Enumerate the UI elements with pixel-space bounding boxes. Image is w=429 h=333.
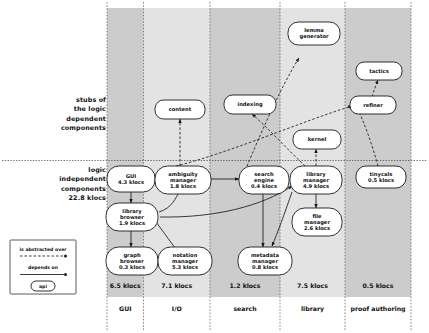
column-name-gui: GUI bbox=[119, 305, 131, 312]
node-libmgr-label-2: 4.9 klocs bbox=[303, 183, 329, 189]
node-filemgr-label-0: file bbox=[312, 213, 322, 219]
node-tinycals-label-1: 0.5 klocs bbox=[368, 177, 394, 183]
node-lemmagen-label-1: generator bbox=[299, 33, 329, 40]
node-libbrow-label-2: 1.9 klocs bbox=[119, 220, 145, 226]
node-ambig-label-2: 1.8 klocs bbox=[170, 183, 196, 189]
legend-api-label: api bbox=[39, 284, 47, 289]
legend: is abstracted over depends on api bbox=[10, 240, 76, 294]
node-searcheng-label-0: search bbox=[254, 171, 274, 177]
node-graphbrow-label-2: 0.3 klocs bbox=[119, 264, 145, 270]
node-searcheng-label-2: 0.4 klocs bbox=[251, 183, 277, 189]
node-libbrow-label-1: browser bbox=[120, 214, 144, 220]
column-name-proof: proof authoring bbox=[350, 305, 405, 313]
column-band-proof bbox=[345, 8, 411, 297]
node-metadata-label-0: metadata bbox=[251, 252, 280, 258]
node-tactics-label-0: tactics bbox=[369, 68, 388, 74]
node-gui-label-0: GUI bbox=[126, 173, 136, 179]
column-name-search: search bbox=[233, 305, 256, 312]
column-name-io: I/O bbox=[172, 305, 182, 312]
node-lemmagen-label-0: lemma bbox=[304, 27, 324, 33]
node-indexing-label-0: indexing bbox=[237, 101, 263, 108]
diagram-canvas: contentindexingkernellemmageneratortacti… bbox=[0, 0, 429, 333]
node-filemgr-label-2: 2.6 klocs bbox=[304, 225, 330, 231]
node-graphbrow-label-1: browser bbox=[120, 258, 144, 264]
column-total-search: 1.2 klocs bbox=[230, 282, 261, 289]
column-total-proof: 0.5 klocs bbox=[363, 282, 394, 289]
legend-depends-dot bbox=[64, 273, 67, 276]
node-metadata-label-2: 0.8 klocs bbox=[252, 264, 278, 270]
column-total-lib: 7.5 klocs bbox=[297, 282, 328, 289]
legend-abstracted-dot bbox=[64, 255, 67, 258]
node-notation-label-0: notation bbox=[173, 252, 198, 258]
node-gui-label-1: 4.3 klocs bbox=[118, 179, 144, 185]
node-refiner-label-0: refiner bbox=[363, 102, 383, 108]
legend-depends-label: depends on bbox=[28, 265, 58, 270]
node-kernel-label-0: kernel bbox=[308, 136, 327, 142]
node-notation-label-2: 5.3 klocs bbox=[172, 264, 198, 270]
column-total-io: 7.1 klocs bbox=[161, 282, 192, 289]
architecture-diagram: stubs ofthe logicdependentcomponents log… bbox=[0, 0, 429, 333]
column-name-lib: library bbox=[301, 305, 324, 313]
column-total-gui: 6.5 klocs bbox=[110, 282, 141, 289]
legend-abstracted-label: is abstracted over bbox=[19, 247, 67, 252]
node-content-label-0: content bbox=[169, 106, 192, 112]
